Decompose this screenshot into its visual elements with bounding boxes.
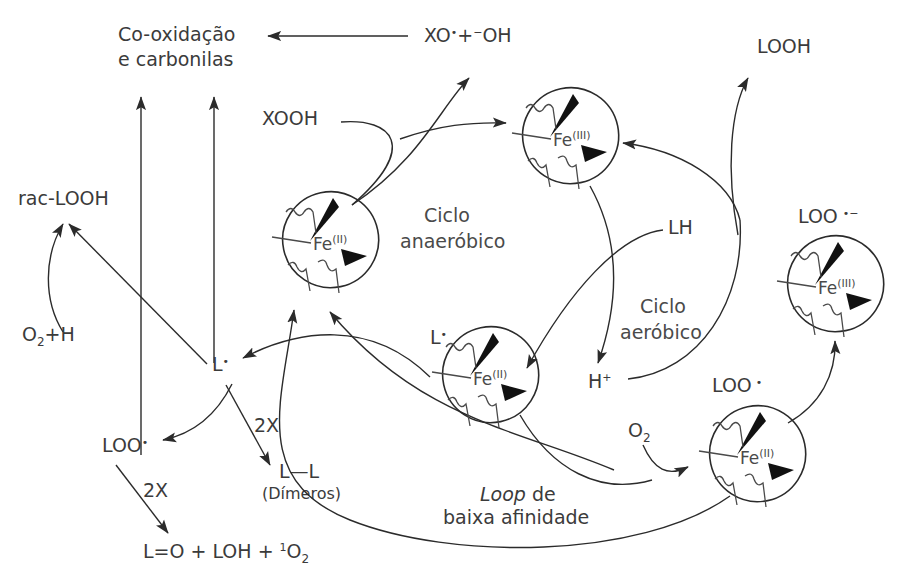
label-l-l: L—L [279, 460, 320, 482]
label-co-oxidacao-line1: Co-oxidação [118, 23, 235, 45]
heme-center-fe2-center: Fe(II) [432, 318, 548, 432]
heme-center-fe2-left: Fe(II) [272, 183, 388, 297]
label-xooh: XOOH [262, 107, 318, 129]
label-l-radical-group: L• [212, 353, 229, 375]
label-ciclo-anaerobico-line2: anaeróbico [400, 230, 505, 252]
label-xo-plus: + [457, 24, 473, 46]
reaction-scheme-diagram: Co-oxidação e carbonilas XO•+−OH rac-LOO… [0, 0, 915, 586]
label-o2-right-subscript: 2 [643, 431, 651, 445]
label-xo-radical: XO [424, 24, 451, 46]
label-loo-radical-right-group: LOO• [712, 374, 762, 396]
label-o2-subscript: 2 [37, 335, 45, 349]
arrow-o2-to-fe2-lowright [643, 445, 688, 471]
label-looh: LOOH [757, 35, 811, 57]
label-lh: LH [668, 216, 693, 238]
label-bottom-products: L=O + LOH + [143, 540, 280, 562]
label-rac-looh: rac-LOOH [18, 187, 109, 209]
label-l-radical-small-dot: • [441, 328, 448, 341]
label-loo-radical-right: LOO [712, 374, 752, 396]
label-bottom-products-group: L=O + LOH + 1O2 [143, 540, 309, 566]
label-loo-anion: LOO [798, 205, 838, 227]
label-2x-bottom: 2X [143, 479, 168, 501]
heme-center-fe3-top: Fe(III) [512, 79, 628, 193]
label-h-plus-superscript: + [602, 371, 611, 384]
arrow-fe2left-to-xo-radical [352, 78, 469, 205]
arrow-to-fe3-top-from-right [623, 143, 740, 220]
label-l-radical: L [212, 353, 223, 375]
label-l-radical-small: L [430, 326, 441, 348]
label-bottom-products-tail: O [287, 540, 302, 562]
heme-center-fe3-right: Fe(III) [777, 227, 893, 341]
label-o2-right: O [628, 419, 643, 441]
label-loo-radical-dot: • [142, 436, 149, 449]
label-loop-line1: Loop de [480, 483, 556, 505]
curve-xooh-to-fe2-left [341, 122, 392, 205]
label-loop-tail: de [526, 483, 556, 505]
label-co-oxidacao-line2: e carbonilas [118, 48, 233, 70]
label-l-radical-dot: • [223, 355, 230, 368]
label-oh-minus: OH [482, 24, 511, 46]
arrow-fe2lowright-to-fe3right [788, 341, 835, 423]
label-singlet-superscript: 1 [280, 541, 287, 554]
arrow-to-looh [731, 78, 748, 235]
label-o2-plus-h-tail: +H [45, 323, 75, 345]
label-loop-line2: baixa afinidade [443, 506, 589, 528]
label-xo-radical-group: XO•+−OH [424, 24, 512, 46]
arrow-to-fe3-top [400, 123, 506, 139]
arrow-o2h-to-rac-looh [48, 224, 63, 332]
arrow-fe3top-to-hplus [590, 186, 614, 363]
label-ciclo-aerobico-line1: Ciclo [640, 295, 686, 317]
label-2x-dimers: 2X [254, 414, 279, 436]
label-o2-plus-h-group: O2+H [22, 323, 75, 349]
label-loo-radical-group: LOO• [102, 434, 148, 456]
arrow-fe2center-to-lradical [243, 335, 430, 377]
label-loo-radical: LOO [102, 434, 142, 456]
label-o2-right-group: O2 [628, 419, 651, 445]
heme-center-fe2-lowright: Fe(II) [699, 397, 815, 511]
label-ciclo-anaerobico-line1: Ciclo [424, 204, 470, 226]
label-oh-minus-superscript: − [473, 26, 482, 39]
label-dimeros: (Dímeros) [262, 484, 341, 503]
label-h-plus: H [588, 370, 602, 392]
arrow-lradical-to-rac-looh [69, 224, 207, 364]
arrow-lradical-to-loo-radical [163, 384, 232, 440]
label-ciclo-aerobico-line2: aeróbico [620, 321, 702, 343]
curve-to-fe2-left-secondary [330, 312, 614, 470]
label-h-plus-group: H+ [588, 370, 612, 392]
label-l-radical-small-group: L• [430, 326, 447, 348]
label-o2-plus-h: O [22, 323, 37, 345]
label-loo-radical-right-dot: • [756, 376, 763, 389]
label-loo-anion-group: LOO•− [798, 205, 859, 227]
label-bottom-products-subscript: 2 [302, 552, 310, 566]
label-loop-word: Loop [480, 483, 526, 505]
label-loo-anion-superscript-minus: − [849, 207, 858, 220]
